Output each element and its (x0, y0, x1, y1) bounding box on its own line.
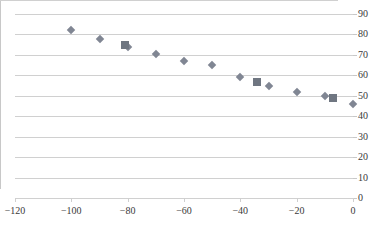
y-tick-10 (353, 178, 357, 179)
x-axis-label: 0 (351, 205, 356, 216)
gridline-y-30 (15, 137, 353, 138)
gridline-y-70 (15, 55, 353, 56)
gridline-y-10 (15, 178, 353, 179)
data-point (264, 81, 272, 89)
data-point (208, 61, 216, 69)
y-axis-label: 90 (358, 9, 368, 19)
data-point (95, 34, 103, 42)
data-point (292, 87, 300, 95)
x-tick--120 (15, 198, 16, 202)
data-point (180, 57, 188, 65)
data-point (121, 41, 129, 49)
x-tick--20 (297, 198, 298, 202)
x-axis-label: −20 (289, 205, 305, 216)
data-point (152, 50, 160, 58)
x-axis-label: −120 (5, 205, 26, 216)
y-axis-label: 0 (358, 193, 363, 203)
y-tick-90 (353, 14, 357, 15)
data-point (349, 100, 357, 108)
plot-area (15, 14, 353, 198)
x-tick--100 (71, 198, 72, 202)
gridline-y-40 (15, 116, 353, 117)
gridline-y-90 (15, 14, 353, 15)
y-axis-label: 50 (358, 91, 368, 101)
y-tick-60 (353, 75, 357, 76)
y-axis-label: 20 (358, 152, 368, 162)
data-point (329, 94, 337, 102)
x-tick--80 (128, 198, 129, 202)
y-tick-40 (353, 116, 357, 117)
y-tick-20 (353, 157, 357, 158)
gridline-y-60 (15, 75, 353, 76)
y-axis-label: 40 (358, 111, 368, 121)
y-axis-label: 10 (358, 173, 368, 183)
gridline-y-80 (15, 34, 353, 35)
x-axis-label: −100 (61, 205, 82, 216)
y-tick-50 (353, 96, 357, 97)
y-tick-80 (353, 34, 357, 35)
y-axis-line (0, 1, 1, 189)
y-axis-label: 30 (358, 132, 368, 142)
x-tick--40 (240, 198, 241, 202)
scatter-chart: 0102030405060708090 −120−100−80−60−40−20… (0, 0, 388, 234)
data-point (67, 26, 75, 34)
x-axis-label: −40 (232, 205, 248, 216)
y-tick-30 (353, 137, 357, 138)
x-axis-line (0, 0, 338, 1)
y-axis-label: 60 (358, 70, 368, 80)
data-point (253, 78, 261, 86)
x-tick-0 (353, 198, 354, 202)
y-axis-label: 80 (358, 29, 368, 39)
y-tick-70 (353, 55, 357, 56)
data-point (321, 92, 329, 100)
gridline-y-50 (15, 96, 353, 97)
gridline-y-20 (15, 157, 353, 158)
x-axis-label: −80 (120, 205, 136, 216)
x-axis-label: −60 (176, 205, 192, 216)
x-tick--60 (184, 198, 185, 202)
y-axis-label: 70 (358, 50, 368, 60)
